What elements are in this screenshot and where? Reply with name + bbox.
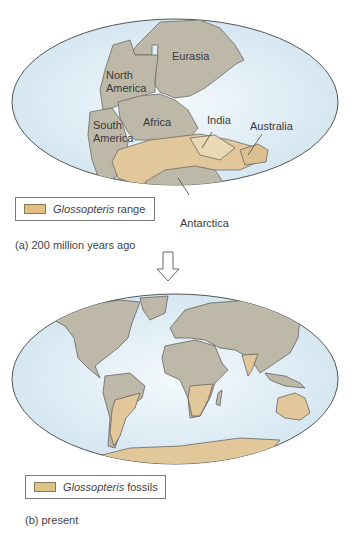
- legend-fossils: Glossopteris fossils: [25, 475, 166, 499]
- label-eurasia: Eurasia: [172, 50, 209, 62]
- caption-b: (b) present: [25, 514, 78, 526]
- label-india: India: [207, 114, 231, 126]
- legend-swatch-fossils: [34, 482, 56, 492]
- caption-a: (a) 200 million years ago: [15, 239, 135, 251]
- legend-range-label: range: [117, 203, 145, 215]
- label-antarctica: Antarctica: [180, 217, 229, 229]
- pangaea-map: [0, 0, 354, 195]
- label-north-america-line1: North: [106, 69, 133, 81]
- down-arrow-icon: [155, 251, 181, 283]
- present-world-map: [0, 288, 354, 470]
- legend-fossils-label: fossils: [127, 481, 158, 493]
- legend-swatch-range: [24, 204, 46, 214]
- label-north-america-line2: America: [106, 82, 146, 94]
- label-africa: Africa: [143, 116, 171, 128]
- label-australia: Australia: [250, 120, 293, 132]
- legend-range: Glossopteris range: [15, 197, 155, 221]
- legend-range-species: Glossopteris: [53, 203, 114, 215]
- legend-fossils-species: Glossopteris: [63, 481, 124, 493]
- label-south-america-line1: South: [93, 119, 122, 131]
- label-south-america-line2: America: [93, 132, 133, 144]
